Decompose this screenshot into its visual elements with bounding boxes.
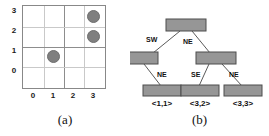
leaf-label-3-2: <3,2> [190, 99, 211, 108]
grid-point-3-2 [87, 30, 100, 43]
edge-label-se: SE [191, 71, 201, 78]
y-tick-0: 0 [8, 66, 20, 76]
leaf-label-3-3: <3,3> [233, 99, 254, 108]
tree-node-sw[interactable] [130, 52, 158, 64]
x-tick-2: 2 [67, 91, 79, 101]
y-tick-2: 2 [8, 26, 20, 36]
panel-b-tree: SW NE NE SE NE <1,1> <3,2> <3,3> (b) [130, 0, 269, 136]
tree-leaf-3-2[interactable] [181, 85, 219, 96]
y-tick-1: 1 [8, 46, 20, 56]
edge-label-ne-sw: NE [157, 71, 167, 78]
edge-label-ne-ne: NE [229, 71, 239, 78]
edge-root-ne [192, 31, 210, 53]
quadtree-figure: 3 2 1 0 0 1 2 3 (a) [0, 0, 269, 136]
panel-a-caption: (a) [0, 112, 130, 128]
grid-plot [22, 5, 106, 89]
panel-a-grid: 3 2 1 0 0 1 2 3 (a) [0, 0, 130, 136]
quadtree-tree-svg: SW NE NE SE NE <1,1> <3,2> <3,3> [130, 0, 269, 112]
x-tick-1: 1 [47, 91, 59, 101]
y-tick-3: 3 [8, 6, 20, 16]
edge-ne-leaf2 [199, 64, 209, 86]
edge-label-sw: SW [146, 36, 158, 43]
grid-line-h1 [23, 27, 105, 28]
tree-node-root[interactable] [166, 19, 206, 31]
tree-leaf-3-3[interactable] [224, 85, 262, 96]
grid-line-h2-major [23, 47, 105, 48]
tree-leaf-1-1[interactable] [143, 85, 181, 96]
x-tick-3: 3 [87, 91, 99, 101]
tree-node-ne[interactable] [196, 52, 236, 64]
edge-label-ne-top: NE [183, 38, 193, 45]
x-tick-0: 0 [27, 91, 39, 101]
grid-point-3-3 [87, 10, 100, 23]
panel-b-caption: (b) [130, 112, 269, 128]
grid-point-1-1 [47, 50, 60, 63]
leaf-label-1-1: <1,1> [152, 99, 173, 108]
grid-line-h3 [23, 67, 105, 68]
